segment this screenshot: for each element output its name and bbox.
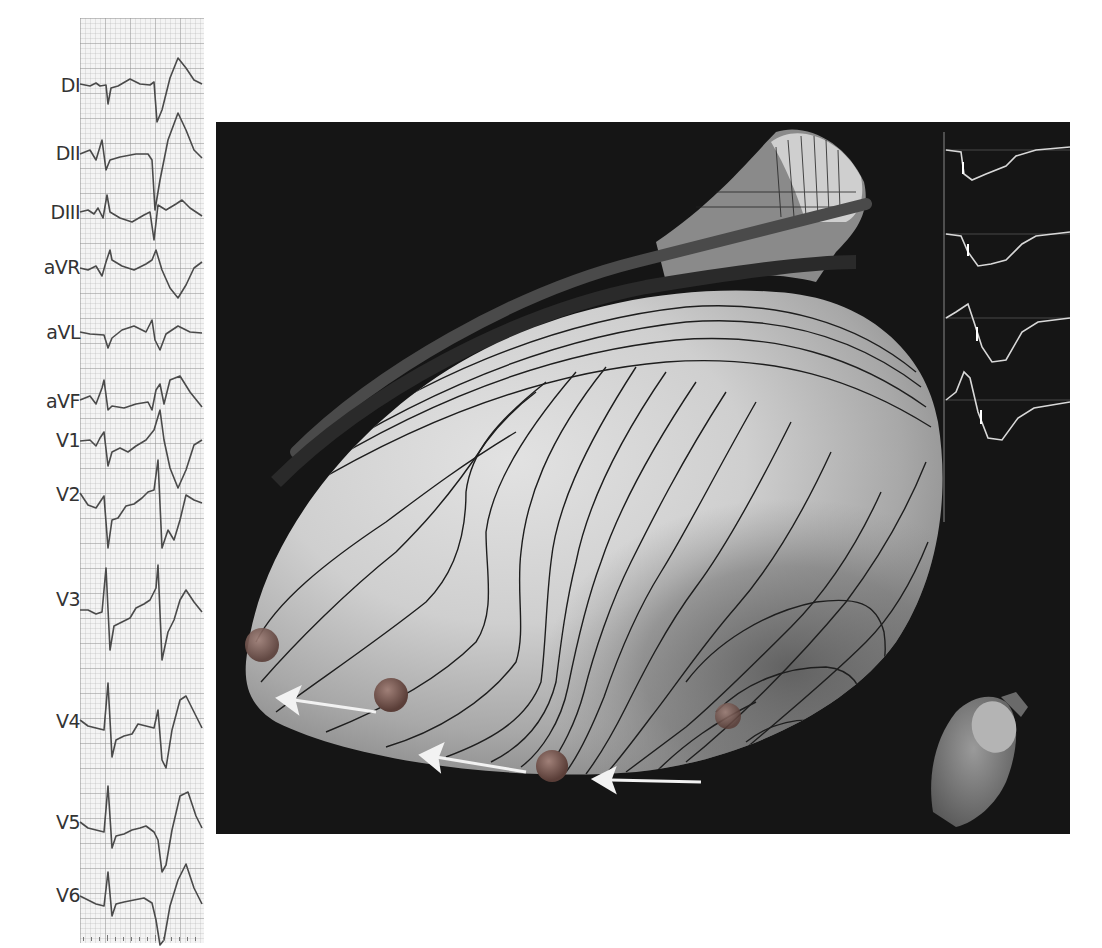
3d-activation-map (216, 122, 1070, 834)
electrogram-panel (944, 132, 1070, 522)
ventricle-surface (246, 290, 943, 774)
orientation-inset-model (931, 692, 1028, 827)
electrode-marker-1 (245, 628, 279, 662)
electrode-marker-4 (715, 703, 741, 729)
activation-map-panel (216, 122, 1070, 834)
electrode-marker-2 (374, 678, 408, 712)
ecg-traces (0, 0, 210, 948)
ecg-12-lead-panel: DIDIIDIIIaVRaVLaVFV1V2V3V4V5V6 (0, 0, 210, 948)
electrode-marker-3 (536, 750, 568, 782)
